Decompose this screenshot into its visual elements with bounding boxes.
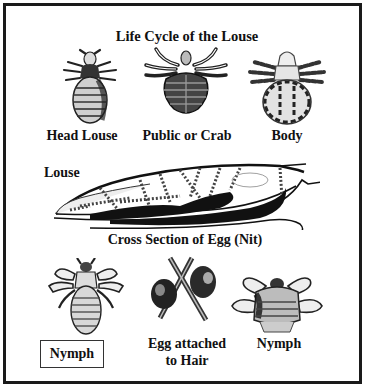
crab-louse-icon: [140, 45, 232, 117]
egg-attached-label-line1: Egg attached: [148, 336, 226, 351]
nymph-left-label: Nymph: [41, 346, 103, 361]
nymph-left-icon: [45, 258, 127, 336]
head-louse-label: Head Louse: [46, 128, 117, 143]
egg-cross-section-caption: Cross Section of Egg (Nit): [108, 232, 263, 247]
body-louse-label: Body: [271, 128, 302, 143]
diagram-title: Life Cycle of the Louse: [116, 29, 259, 44]
egg-attached-label-line2: to Hair: [165, 353, 208, 368]
nymph-right-label: Nymph: [257, 336, 301, 351]
body-louse-icon: [244, 50, 330, 126]
egg-on-hair-icon: [148, 256, 218, 322]
head-louse-icon: [58, 48, 122, 124]
egg-cross-section-icon: [50, 158, 320, 230]
crab-louse-label: Public or Crab: [142, 128, 231, 143]
nymph-boxed-label: Nymph: [40, 340, 104, 368]
nymph-right-icon: [228, 272, 326, 334]
